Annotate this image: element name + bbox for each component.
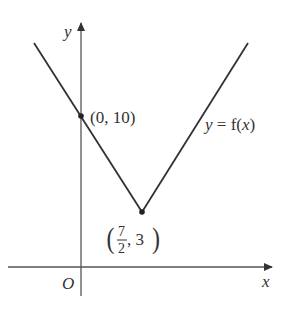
intercept-label: (0, 10) — [90, 108, 135, 127]
vertex-label: ( 7 2 , 3 ) — [106, 221, 160, 256]
svg-text:(: ( — [106, 221, 114, 254]
curve-label: y = f(x) — [203, 115, 255, 134]
svg-text:7: 7 — [118, 224, 125, 239]
svg-text:2: 2 — [118, 241, 125, 256]
origin-label: O — [62, 274, 74, 293]
x-axis-label: x — [261, 272, 270, 291]
vertex-point — [139, 209, 145, 215]
graph-diagram: y x O (0, 10) y = f(x) ( 7 2 , 3 ) — [0, 0, 286, 309]
intercept-point — [78, 113, 84, 119]
y-axis-label: y — [62, 22, 72, 41]
svg-text:, 3: , 3 — [127, 230, 144, 249]
svg-text:): ) — [152, 221, 160, 254]
